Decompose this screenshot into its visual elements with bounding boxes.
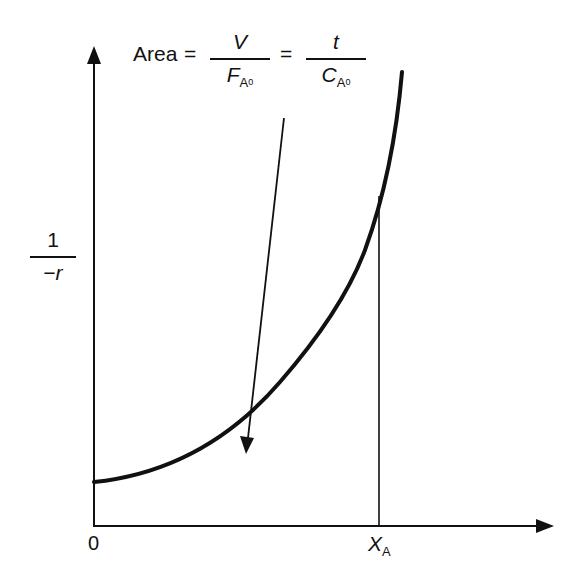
area-pointer-arrow	[248, 118, 284, 438]
diagram-canvas	[0, 0, 583, 570]
x-axis-arrowhead-icon	[536, 519, 554, 533]
y-label-denominator: −r	[30, 261, 76, 285]
equation-equals-2: =	[280, 42, 292, 66]
fraction1-numerator: V	[210, 30, 270, 54]
y-axis-arrowhead-icon	[87, 46, 101, 64]
fraction-t-over-ca0: t CA0	[306, 30, 366, 91]
equation-lhs: Area	[133, 42, 177, 66]
fraction2-denominator: CA0	[306, 63, 366, 91]
equation-equals-1: =	[184, 42, 196, 66]
area-pointer-arrowhead-icon	[240, 436, 254, 454]
x-axis-origin-label: 0	[88, 532, 99, 555]
x-axis-xa-label: XA	[368, 532, 391, 556]
y-label-numerator: 1	[30, 228, 76, 252]
fraction2-bar	[306, 58, 366, 60]
y-axis-label: 1 −r	[30, 228, 76, 285]
fraction2-numerator: t	[306, 30, 366, 54]
fraction1-denominator: FA0	[210, 63, 270, 91]
fraction-v-over-fa0: V FA0	[210, 30, 270, 91]
fraction1-bar	[210, 58, 270, 60]
rate-curve	[94, 72, 402, 482]
y-label-bar	[30, 256, 76, 258]
